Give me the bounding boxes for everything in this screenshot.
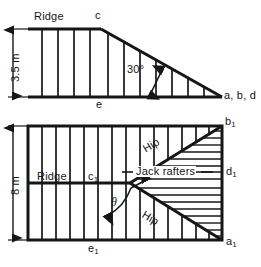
plan-ridge-label: Ridge <box>37 171 67 182</box>
plan-ridge-end-subscript: 1 <box>94 175 99 184</box>
elevation-height-label: 3.5 m <box>10 53 21 82</box>
drawing-canvas <box>0 0 261 267</box>
plan-top-right-subscript: 1 <box>231 120 236 129</box>
roof-drawing-figure: Ridge c e a, b, d 30° 3.5 m Ridge c1 b1 … <box>0 0 261 267</box>
plan-top-right-label: b1 <box>225 116 236 127</box>
elevation-group <box>8 29 222 97</box>
plan-bottom-right-label: a1 <box>226 236 237 247</box>
plan-bottom-left-label: e1 <box>88 243 99 254</box>
elevation-angle-label: 30° <box>127 64 144 75</box>
elevation-base-center-label: e <box>96 99 102 110</box>
plan-bottom-right-subscript: 1 <box>232 240 237 249</box>
plan-ridge-end-label: c1 <box>88 171 98 182</box>
plan-right-mid-label: d1 <box>226 166 237 177</box>
elevation-ridge-label: Ridge <box>34 11 64 22</box>
elevation-apex-label: c <box>95 10 101 21</box>
elevation-right-corner-label: a, b, d <box>224 90 256 101</box>
plan-ridge-end-letter: c <box>88 170 94 182</box>
plan-theta-label: θ <box>111 196 117 208</box>
plan-bottom-left-subscript: 1 <box>94 247 99 256</box>
elevation-rafters <box>42 29 90 97</box>
plan-right-mid-subscript: 1 <box>232 170 237 179</box>
plan-jack-rafters-label: Jack rafters <box>135 166 196 177</box>
plan-group <box>8 126 222 240</box>
plan-width-label: 8 m <box>10 176 21 195</box>
